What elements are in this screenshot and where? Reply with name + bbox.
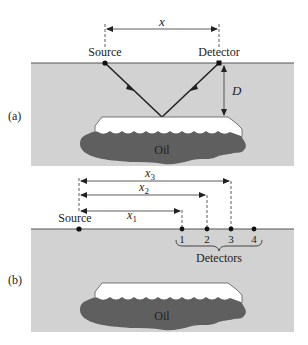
distance-x3-label: x3 xyxy=(144,166,155,182)
seismic-diagram: x Source Detector D (a) Oil xyxy=(0,0,308,345)
detector-4-point-icon xyxy=(252,227,257,232)
distance-x2-label: x2 xyxy=(138,180,149,196)
detector-1-number: 1 xyxy=(179,233,185,245)
detector-1-point-icon xyxy=(180,227,185,232)
distance-x-label: x xyxy=(158,14,165,29)
panel-a: x Source Detector D (a) Oil xyxy=(8,14,294,166)
detector-4-number: 4 xyxy=(251,233,257,245)
detector-2-point-icon xyxy=(205,227,210,232)
panel-a-label: (a) xyxy=(8,109,21,123)
detector-label: Detector xyxy=(198,45,239,59)
detector-2-number: 2 xyxy=(204,233,210,245)
panel-b-label: (b) xyxy=(8,273,22,287)
panel-b: x3 x2 x1 Source 1 2 3 4 Detectors (b) Oi… xyxy=(8,166,294,332)
depth-d-label: D xyxy=(231,83,242,98)
source-label: Source xyxy=(88,45,121,59)
distance-x1-label: x1 xyxy=(126,208,137,224)
source-point-icon xyxy=(102,60,107,65)
detector-3-point-icon xyxy=(229,227,234,232)
oil-label-b: Oil xyxy=(154,309,170,323)
detector-point-icon xyxy=(217,61,222,66)
source-label-b: Source xyxy=(58,211,91,225)
detectors-group-label: Detectors xyxy=(196,251,242,265)
detector-3-number: 3 xyxy=(228,233,234,245)
source-point-icon-b xyxy=(76,226,81,231)
oil-label-a: Oil xyxy=(154,143,170,157)
